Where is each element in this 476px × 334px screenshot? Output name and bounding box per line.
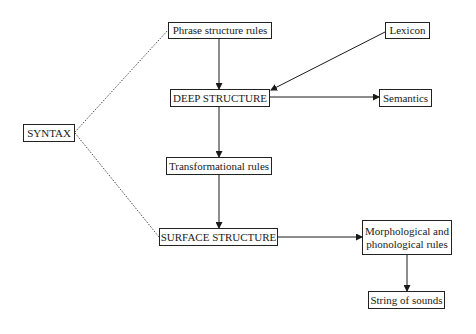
node-string-of-sounds-label: String of sounds bbox=[370, 294, 442, 307]
node-transformational-rules-label: Transformational rules bbox=[169, 160, 269, 173]
node-lexicon: Lexicon bbox=[385, 22, 430, 39]
node-morph-label-line1: Morphological and bbox=[365, 225, 449, 238]
arrow-lexicon-to-deep bbox=[271, 32, 385, 90]
node-phrase-structure-rules-label: Phrase structure rules bbox=[173, 24, 268, 37]
node-surface-structure: SURFACE STRUCTURE bbox=[159, 228, 278, 246]
node-deep-structure: DEEP STRUCTURE bbox=[170, 89, 270, 107]
node-transformational-rules: Transformational rules bbox=[166, 157, 272, 175]
node-deep-structure-label: DEEP STRUCTURE bbox=[173, 92, 267, 105]
node-morphological-phonological-rules: Morphological and phonological rules bbox=[362, 220, 452, 255]
node-morph-label-line2: phonological rules bbox=[366, 238, 448, 251]
node-syntax-label: SYNTAX bbox=[27, 127, 71, 140]
node-surface-structure-label: SURFACE STRUCTURE bbox=[161, 231, 277, 244]
node-syntax: SYNTAX bbox=[23, 124, 75, 142]
node-string-of-sounds: String of sounds bbox=[368, 291, 445, 309]
node-semantics-label: Semantics bbox=[383, 92, 428, 105]
dotted-link-syntax-phrase bbox=[75, 30, 168, 132]
node-lexicon-label: Lexicon bbox=[389, 24, 425, 37]
node-semantics: Semantics bbox=[379, 89, 432, 107]
node-phrase-structure-rules: Phrase structure rules bbox=[168, 22, 272, 39]
dotted-link-syntax-surface bbox=[75, 133, 159, 237]
